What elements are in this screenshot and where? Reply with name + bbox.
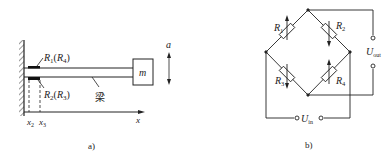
panel-a-cantilever: R1(R4) R2(R3) 梁 m a x2 x3 x a) [19,39,171,151]
caption-b: b) [305,140,313,150]
caption-a: a) [88,141,95,151]
strain-gauge-r2-r3 [28,77,40,80]
label-mass: m [139,67,146,78]
label-uout: Uout [366,46,381,58]
label-beam: 梁 [95,91,105,103]
x-axis-arrow-icon [138,110,145,114]
node-right [349,51,351,53]
leader-beam [92,77,99,87]
r3-arrow-down-icon [285,83,289,89]
terminal-in-left [295,116,299,120]
node-left [265,51,267,53]
node-bottom [307,94,309,96]
r2-arrow-down-icon [327,41,331,47]
arrow-down-icon [167,79,171,85]
panel-b-labels: R1 R2 R3 R4 Uout Uin b) [273,20,381,150]
r1-arrow-up-icon [285,15,289,21]
leader-r2 [38,80,44,88]
label-r4: R4 [335,75,346,87]
label-uin: Uin [301,113,313,125]
strain-gauge-r1-r4 [28,66,40,69]
label-x2: x2 [26,117,34,128]
label-x3: x3 [38,117,46,128]
diagram-canvas: R1(R4) R2(R3) 梁 m a x2 x3 x a) [0,0,389,164]
terminal-out-minus [371,64,375,68]
label-r2-r3: R2(R3) [43,89,70,102]
fixed-wall-hatching [19,40,24,116]
leader-r1 [37,58,43,66]
label-r2: R2 [335,20,345,32]
r4-arrow-up-icon [327,59,331,65]
label-r1: R1 [273,22,283,34]
label-r1-r4: R1(R4) [43,52,70,65]
terminal-out-plus [371,36,375,40]
label-r3: R3 [274,75,284,87]
label-x-axis: x [135,115,140,125]
panel-b-bridge [265,9,375,120]
label-acceleration: a [166,39,171,50]
node-top [307,9,309,11]
arrow-up-icon [167,52,171,58]
terminal-in-right [319,116,323,120]
